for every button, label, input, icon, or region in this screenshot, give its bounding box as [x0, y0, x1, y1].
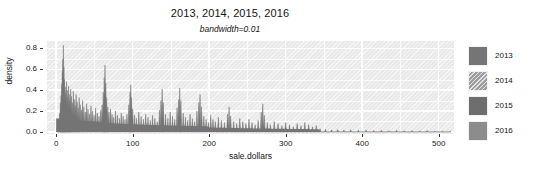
y-tick-mark	[40, 48, 43, 49]
legend-label: 2014	[495, 76, 513, 85]
x-tick-mark	[286, 134, 287, 137]
legend-swatch-hatch	[469, 72, 487, 90]
y-tick-label: 0.8	[26, 43, 37, 52]
density-chart: 2013, 2014, 2015, 2016 bandwidth=0.01 0.…	[0, 0, 538, 170]
legend-item-2015[interactable]: 2015	[468, 96, 538, 116]
density-curve-2013	[47, 41, 454, 134]
x-axis-ticks: 0100200300400500	[47, 134, 454, 152]
legend-label: 2013	[495, 51, 513, 60]
x-tick-label: 100	[126, 139, 139, 148]
y-tick-mark	[40, 90, 43, 91]
y-tick-mark	[40, 132, 43, 133]
density-area-2013	[57, 45, 451, 132]
x-tick-mark	[362, 134, 363, 137]
x-tick-label: 300	[279, 139, 292, 148]
y-tick-mark	[40, 111, 43, 112]
x-tick-mark	[133, 134, 134, 137]
y-tick-label: 0.2	[26, 106, 37, 115]
legend-swatch-2015	[468, 96, 488, 116]
x-tick-mark	[56, 134, 57, 137]
x-tick-label: 500	[432, 139, 445, 148]
y-tick-label: 0.4	[26, 85, 37, 94]
y-tick-label: 0.0	[26, 127, 37, 136]
plot-area	[47, 41, 454, 134]
chart-subtitle: bandwidth=0.01	[0, 24, 460, 34]
x-tick-mark	[439, 134, 440, 137]
y-tick-mark	[40, 69, 43, 70]
legend-item-2013[interactable]: 2013	[468, 46, 538, 66]
legend: 2013201420152016	[468, 46, 538, 146]
x-tick-label: 400	[356, 139, 369, 148]
x-tick-mark	[209, 134, 210, 137]
x-tick-label: 0	[54, 139, 58, 148]
legend-swatch-2014	[468, 71, 488, 91]
legend-item-2014[interactable]: 2014	[468, 71, 538, 91]
x-axis-title: sale.dollars	[47, 151, 454, 161]
legend-label: 2015	[495, 101, 513, 110]
legend-swatch-2016	[468, 121, 488, 141]
y-tick-label: 0.6	[26, 64, 37, 73]
legend-item-2016[interactable]: 2016	[468, 121, 538, 141]
plot-panel	[47, 41, 454, 134]
x-tick-label: 200	[203, 139, 216, 148]
chart-title: 2013, 2014, 2015, 2016	[0, 7, 460, 19]
y-axis-title: density	[4, 41, 14, 101]
legend-label: 2016	[495, 126, 513, 135]
legend-swatch-2013	[468, 46, 488, 66]
